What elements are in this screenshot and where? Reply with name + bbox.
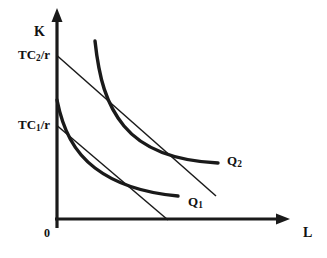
curve-label-q1: Q1 bbox=[188, 195, 203, 210]
curve-label-q2-prefix: Q bbox=[227, 153, 237, 168]
curve-label-q1-subscript: 1 bbox=[198, 200, 203, 210]
intercept-label-tc2-prefix: TC bbox=[18, 47, 36, 62]
intercept-label-tc1-prefix: TC bbox=[18, 117, 36, 132]
curve-label-q2: Q2 bbox=[227, 154, 242, 169]
intercept-label-tc1-suffix: /r bbox=[41, 117, 50, 132]
curve-label-q1-prefix: Q bbox=[188, 194, 198, 209]
isocost-line-tc2 bbox=[58, 56, 217, 196]
k-axis-arrowhead-icon bbox=[52, 8, 63, 22]
intercept-label-tc2: TC2/r bbox=[18, 48, 50, 63]
l-axis-label: L bbox=[303, 226, 312, 240]
curve-label-q2-subscript: 2 bbox=[237, 159, 242, 169]
l-axis-arrowhead-icon bbox=[276, 214, 290, 225]
intercept-label-tc2-suffix: /r bbox=[41, 47, 50, 62]
isocost-line-tc1 bbox=[58, 126, 169, 220]
intercept-label-tc1: TC1/r bbox=[18, 118, 50, 133]
origin-label: 0 bbox=[44, 227, 50, 239]
isoquant-isocost-diagram: K L 0 TC2/r TC1/r Q2 Q1 bbox=[0, 0, 327, 258]
k-axis-label: K bbox=[34, 25, 45, 39]
isoquant-curve-q2 bbox=[95, 41, 218, 163]
